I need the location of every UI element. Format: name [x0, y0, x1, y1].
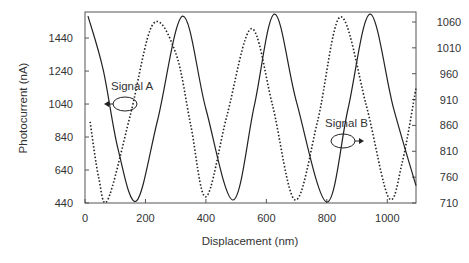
x-axis-title: Displacement (nm) [202, 235, 299, 247]
x-tick-label: 400 [197, 212, 215, 224]
y2-tick-label: 1060 [437, 16, 461, 28]
x-tick-label: 200 [136, 212, 154, 224]
y-tick-label: 1040 [49, 98, 73, 110]
y-tick-label: 1240 [49, 65, 73, 77]
y2-tick-label: 760 [440, 171, 458, 183]
chart: 02004006008001000 440640840104012401440 … [0, 0, 469, 263]
annotation-signal-b: Signal B [325, 117, 368, 148]
y2-tick-label: 960 [440, 68, 458, 80]
y-tick-label: 1440 [49, 32, 73, 44]
y2-tick-label: 1010 [437, 42, 461, 54]
signal-a-line [88, 14, 416, 202]
annotation-signal-a: Signal A [104, 80, 154, 111]
x-tick-label: 1000 [375, 212, 399, 224]
signal-a-arrowhead-icon [104, 101, 109, 107]
x-tick-label: 0 [82, 212, 88, 224]
signal-b-label: Signal B [325, 117, 368, 129]
series-lines [88, 14, 416, 203]
y2-tick-label: 810 [440, 145, 458, 157]
y2-tick-label: 710 [440, 197, 458, 209]
y-tick-label: 640 [55, 164, 73, 176]
y2-tick-label: 910 [440, 94, 458, 106]
y-axis-right-ticks: 71076081086091096010101060 [412, 16, 461, 209]
x-tick-label: 600 [257, 212, 275, 224]
y-axis-left-ticks: 440640840104012401440 [49, 32, 89, 209]
y-tick-label: 840 [55, 131, 73, 143]
signal-b-arrowhead-icon [359, 138, 364, 144]
y-axis-title: Photocurrent (nA) [17, 62, 29, 153]
y2-tick-label: 860 [440, 119, 458, 131]
signal-a-label: Signal A [111, 80, 154, 92]
y-tick-label: 440 [55, 197, 73, 209]
x-tick-label: 800 [318, 212, 336, 224]
